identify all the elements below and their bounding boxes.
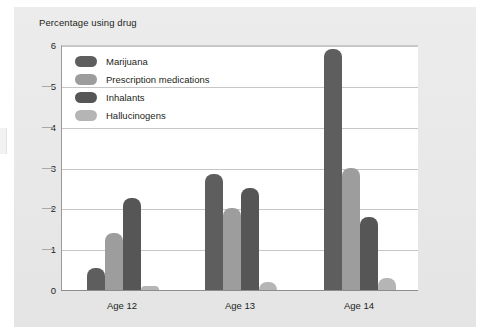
bar-age-14-prescription-medications xyxy=(342,168,360,291)
legend-item-prescription-medications[interactable]: Prescription medications xyxy=(75,70,315,88)
scan-edge-artifact xyxy=(0,128,7,154)
y-tick-mark-5 xyxy=(42,86,55,87)
legend-item-marijuana[interactable]: Marijuana xyxy=(75,52,315,70)
legend-item-label: Prescription medications xyxy=(106,74,210,85)
legend-swatch-icon xyxy=(75,92,97,103)
gridline-2 xyxy=(62,209,418,210)
bar-age-14-marijuana xyxy=(324,49,342,290)
x-tick-label-age-14: Age 14 xyxy=(344,300,374,311)
legend-item-inhalants[interactable]: Inhalants xyxy=(75,88,315,106)
y-tick-mark-4 xyxy=(42,127,55,128)
legend-item-hallucinogens[interactable]: Hallucinogens xyxy=(75,106,315,124)
gridline-3 xyxy=(62,169,418,170)
bar-age-12-marijuana xyxy=(87,268,105,290)
y-axis: 0123456 xyxy=(38,45,56,290)
legend-item-label: Inhalants xyxy=(106,92,145,103)
y-tick-mark-2 xyxy=(42,208,55,209)
legend-item-label: Marijuana xyxy=(106,56,148,67)
x-tick-label-age-13: Age 13 xyxy=(225,300,255,311)
bar-age-13-hallucinogens xyxy=(259,282,277,290)
bar-age-13-inhalants xyxy=(241,188,259,290)
legend-swatch-icon xyxy=(75,56,97,67)
bar-age-14-inhalants xyxy=(360,217,378,291)
x-tick-label-age-12: Age 12 xyxy=(107,300,137,311)
chart-screenshot: Percentage using drug 0123456 MarijuanaP… xyxy=(0,0,490,336)
bar-age-13-marijuana xyxy=(205,174,223,290)
gridline-6 xyxy=(62,46,418,47)
bar-age-14-hallucinogens xyxy=(378,278,396,290)
legend-item-label: Hallucinogens xyxy=(106,110,166,121)
bar-age-12-inhalants xyxy=(123,198,141,290)
legend-swatch-icon xyxy=(75,110,97,121)
page-title: Percentage using drug xyxy=(39,17,137,28)
legend-swatch-icon xyxy=(75,74,97,85)
x-axis-line xyxy=(61,290,418,291)
bar-age-12-prescription-medications xyxy=(105,233,123,290)
y-tick-mark-3 xyxy=(42,168,55,169)
y-tick-mark-1 xyxy=(42,249,55,250)
y-tick-label-0: 0 xyxy=(40,285,56,296)
legend: MarijuanaPrescription medicationsInhalan… xyxy=(75,52,315,124)
gridline-4 xyxy=(62,128,418,129)
bar-age-13-prescription-medications xyxy=(223,208,241,290)
y-tick-label-6: 6 xyxy=(40,40,56,51)
